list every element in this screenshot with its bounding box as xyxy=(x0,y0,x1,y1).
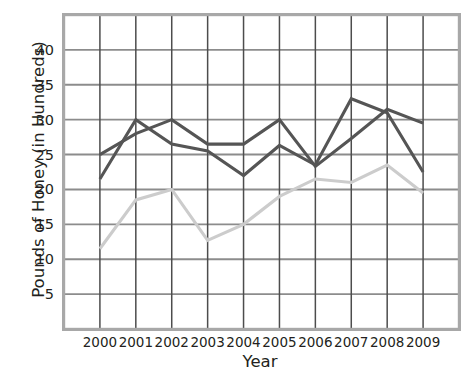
plot-frame xyxy=(64,15,460,330)
x-tick-label: 2007 xyxy=(334,334,368,350)
y-tick-label: 10 xyxy=(36,251,54,267)
y-tick-label: 25 xyxy=(36,147,54,163)
x-tick-label: 2009 xyxy=(406,334,440,350)
x-tick-label: 2004 xyxy=(226,334,260,350)
x-tick-label: 2003 xyxy=(190,334,224,350)
y-axis-tick-labels: 510152025303540 xyxy=(0,0,62,345)
data-line-dark-series-1 xyxy=(100,109,423,166)
x-tick-label: 2008 xyxy=(370,334,404,350)
y-tick-label: 35 xyxy=(36,77,54,93)
y-tick-label: 30 xyxy=(36,112,54,128)
x-tick-label: 2000 xyxy=(83,334,117,350)
x-tick-label: 2006 xyxy=(298,334,332,350)
data-line-light-series xyxy=(100,165,423,249)
x-tick-label: 2005 xyxy=(262,334,296,350)
x-axis-tick-labels: 2000200120022003200420052006200720082009 xyxy=(0,334,475,356)
y-tick-label: 40 xyxy=(36,42,54,58)
x-tick-label: 2002 xyxy=(155,334,189,350)
y-tick-label: 20 xyxy=(36,181,54,197)
gridlines xyxy=(64,15,459,329)
data-line-dark-series-2 xyxy=(100,99,423,179)
x-tick-label: 2001 xyxy=(119,334,153,350)
chart-container: Pounds of Honey (in Hundreds) Year 51015… xyxy=(0,0,475,380)
y-tick-label: 5 xyxy=(45,286,54,302)
y-tick-label: 15 xyxy=(36,216,54,232)
data-series-layer xyxy=(100,99,423,249)
line-chart-svg xyxy=(62,13,461,331)
plot-area xyxy=(62,13,461,331)
